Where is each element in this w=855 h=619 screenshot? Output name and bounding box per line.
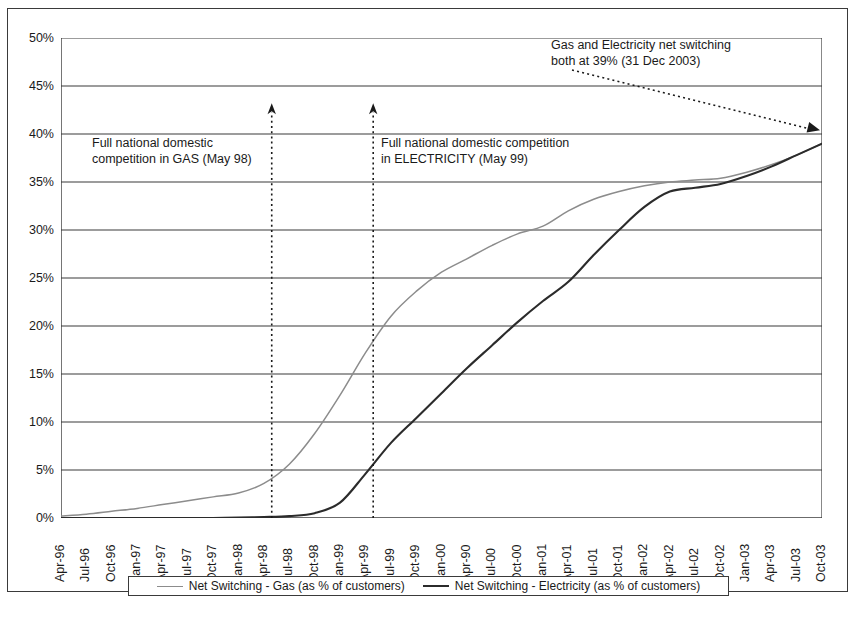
x-tick-label: Jan-03 — [739, 544, 751, 582]
y-tick-label: 45% — [8, 80, 54, 92]
y-tick-label: 0% — [8, 512, 54, 524]
x-tick-label: Jul-96 — [79, 548, 91, 582]
x-tick-label: Oct-03 — [815, 544, 827, 582]
x-axis-labels: Apr-96Jul-96Oct-96Jan-97Apr-97Jul-97Oct-… — [61, 520, 822, 582]
y-tick-label: 10% — [8, 416, 54, 428]
x-tick-label: Apr-96 — [54, 544, 66, 582]
annotation-convergence: Gas and Electricity net switching both a… — [551, 38, 731, 69]
y-tick-label: 5% — [8, 464, 54, 476]
y-tick-label: 40% — [8, 128, 54, 140]
y-tick-label: 30% — [8, 224, 54, 236]
y-tick-label: 20% — [8, 320, 54, 332]
y-tick-label: 50% — [8, 32, 54, 44]
legend-label-electricity: Net Switching - Electricity (as % of cus… — [455, 579, 700, 593]
legend-swatch-electricity-icon — [423, 585, 449, 587]
legend-entry-gas: Net Switching - Gas (as % of customers) — [157, 579, 405, 593]
chart-legend: Net Switching - Gas (as % of customers) … — [128, 576, 729, 596]
legend-entry-electricity: Net Switching - Electricity (as % of cus… — [423, 579, 700, 593]
x-tick-label: Jul-03 — [790, 548, 802, 582]
y-axis-labels: 50%45%40%35%30%25%20%15%10%5%0% — [4, 38, 54, 518]
x-tick-label: Apr-03 — [764, 544, 776, 582]
plot-area — [61, 38, 822, 518]
y-tick-label: 25% — [8, 272, 54, 284]
legend-swatch-gas-icon — [157, 586, 183, 587]
series-lines — [61, 144, 822, 518]
chart-figure: 50%45%40%35%30%25%20%15%10%5%0% Full nat… — [0, 0, 855, 619]
gridlines — [61, 38, 822, 470]
figure-caption — [8, 604, 848, 619]
x-tick-label: Oct-96 — [105, 544, 117, 582]
legend-label-gas: Net Switching - Gas (as % of customers) — [189, 579, 405, 593]
y-tick-label: 35% — [8, 176, 54, 188]
y-tick-label: 15% — [8, 368, 54, 380]
plot-svg — [61, 38, 822, 518]
annotation-electricity-competition: Full national domestic competition in EL… — [381, 136, 569, 167]
annotation-gas-competition: Full national domestic competition in GA… — [92, 136, 252, 167]
